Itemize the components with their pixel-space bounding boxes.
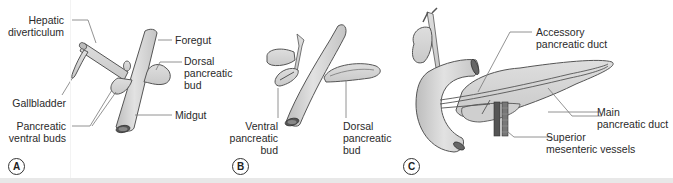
label-pancreatic-ventral-buds: Pancreatic ventral buds [4,120,66,144]
label-main-pancreatic-duct: Main pancreatic duct [597,106,668,130]
label-line: pancreatic duct [597,118,668,130]
label-line: Accessory [536,26,607,38]
panel-label-c: C [403,158,420,175]
label-line: bud [184,79,232,91]
panel-label-b: B [232,158,249,175]
panel-b-artwork [267,25,380,127]
label-dorsal-pancreatic-bud-a: Dorsal pancreatic bud [184,55,232,91]
label-foregut: Foregut [175,34,211,46]
label-line: Pancreatic [4,120,66,132]
label-line: Superior [546,131,635,143]
label-line: Dorsal [343,120,391,132]
label-hepatic-diverticulum: Hepatic diverticulum [6,14,64,38]
label-line: pancreatic [343,132,391,144]
label-ventral-pancreatic-bud: Ventral pancreatic bud [228,120,278,156]
label-accessory-pancreatic-duct: Accessory pancreatic duct [536,26,607,50]
bottom-border [0,178,673,183]
label-line: Dorsal [184,55,232,67]
label-line: bud [343,144,391,156]
label-line: bud [228,144,278,156]
label-line: pancreatic duct [536,38,607,50]
label-line: Main [597,106,668,118]
label-line: Hepatic [6,14,64,26]
label-line: pancreatic [184,67,232,79]
label-midgut: Midgut [175,109,207,121]
label-line: mesenteric vessels [546,143,635,155]
label-gallbladder: Gallbladder [4,97,66,109]
panel-a-artwork [72,29,171,133]
label-superior-mesenteric-vessels: Superior mesenteric vessels [546,131,635,155]
panel-divider [70,0,71,178]
label-line: diverticulum [6,26,64,38]
label-line: ventral buds [4,132,66,144]
label-line: pancreatic [228,132,278,144]
panel-label-a: A [8,158,25,175]
label-dorsal-pancreatic-bud-b: Dorsal pancreatic bud [343,120,391,156]
label-line: Ventral [228,120,278,132]
pancreas-development-diagram: Hepatic diverticulum Foregut Dorsal panc… [0,0,673,183]
